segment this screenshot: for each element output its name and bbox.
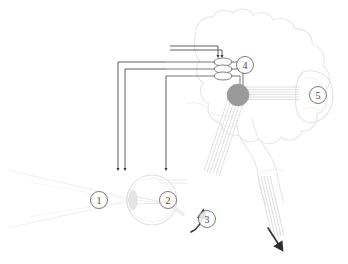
stacked-nuclei-ovals — [214, 58, 232, 80]
label-4-text: 4 — [243, 60, 248, 71]
label-5[interactable]: 5 — [310, 87, 327, 104]
afferent-line-set — [166, 62, 247, 85]
label-5-text: 5 — [316, 90, 321, 101]
optic-nerve-tract — [204, 99, 243, 176]
anatomy-diagram: 1 2 3 4 5 — [0, 0, 348, 264]
label-1-text: 1 — [97, 195, 102, 206]
cerebellar-peduncle-fibers — [243, 87, 299, 100]
diagram-canvas: 1 2 3 4 5 — [0, 0, 348, 264]
label-2[interactable]: 2 — [160, 192, 177, 209]
label-1[interactable]: 1 — [91, 192, 108, 209]
eye-lens — [129, 191, 137, 210]
brainstem-outline — [237, 118, 284, 204]
label-4[interactable]: 4 — [237, 57, 254, 74]
label-3-text: 3 — [205, 214, 210, 225]
descending-arrow-mid — [125, 69, 166, 170]
descending-efferent-lines — [118, 62, 166, 170]
eye-globe — [127, 175, 189, 225]
label-2-text: 2 — [166, 195, 171, 206]
label-3[interactable]: 3 — [199, 211, 216, 228]
spinal-cord-tract — [258, 176, 284, 236]
gray-relay-node — [227, 84, 249, 106]
spinal-output-arrow — [268, 228, 281, 248]
